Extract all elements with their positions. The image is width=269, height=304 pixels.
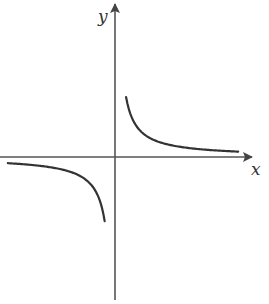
curve-branch-quadrant-i bbox=[126, 97, 238, 152]
curve-branch-quadrant-iii bbox=[8, 163, 105, 221]
y-axis-label: y bbox=[97, 6, 108, 26]
hyperbola-plot: x y bbox=[0, 0, 269, 304]
x-axis-label: x bbox=[251, 159, 261, 179]
